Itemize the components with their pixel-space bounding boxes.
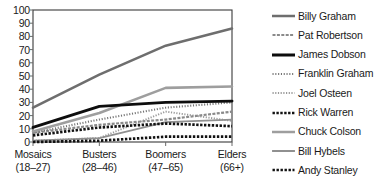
legend-line-swatch-icon [272, 165, 295, 175]
legend-label: Pat Robertson [298, 30, 363, 41]
legend-label: Billy Graham [298, 11, 356, 22]
x-axis-category-name: Busters [62, 148, 136, 161]
x-axis-tick-label: Elders(66+) [195, 148, 269, 174]
x-axis-category-name: Boomers [129, 148, 203, 161]
x-axis-tick-label: Busters(28–46) [62, 148, 136, 174]
x-axis-category-name: Mosaics [0, 148, 70, 161]
chart-legend: Billy GrahamPat RobertsonJames DobsonFra… [272, 4, 383, 183]
legend-line-swatch-icon [272, 69, 295, 79]
legend-item[interactable]: Franklin Graham [272, 67, 373, 81]
legend-item[interactable]: James Dobson [272, 48, 366, 62]
x-axis-category-range: (66+) [195, 161, 269, 174]
legend-label: James Dobson [298, 49, 366, 60]
legend-item[interactable]: Rick Warren [272, 106, 353, 120]
legend-label: Franklin Graham [298, 68, 373, 79]
x-axis-tick-label: Boomers(47–65) [129, 148, 203, 174]
legend-line-swatch-icon [272, 127, 295, 137]
x-axis-labels: Mosaics(18–27)Busters(28–46)Boomers(47–6… [33, 146, 265, 183]
legend-line-swatch-icon [272, 146, 295, 156]
legend-line-swatch-icon [272, 88, 295, 98]
legend-line-swatch-icon [272, 30, 295, 40]
legend-item[interactable]: Billy Graham [272, 9, 356, 23]
legend-item[interactable]: Pat Robertson [272, 28, 363, 42]
legend-label: Bill Hybels [298, 146, 345, 157]
line-chart: 1009080706050403020100 Mosaics(18–27)Bus… [0, 0, 383, 183]
legend-item[interactable]: Bill Hybels [272, 144, 345, 158]
legend-label: Chuck Colson [298, 126, 361, 137]
legend-label: Andy Stanley [298, 165, 357, 176]
legend-item[interactable]: Joel Osteen [272, 86, 352, 100]
x-axis-category-range: (28–46) [62, 161, 136, 174]
x-axis-tick-label: Mosaics(18–27) [0, 148, 70, 174]
legend-line-swatch-icon [272, 108, 295, 118]
legend-line-swatch-icon [272, 11, 295, 21]
legend-label: Rick Warren [298, 107, 353, 118]
x-axis-category-name: Elders [195, 148, 269, 161]
series-line [33, 28, 232, 107]
x-axis-category-range: (47–65) [129, 161, 203, 174]
series-lines [33, 28, 232, 142]
x-axis-category-range: (18–27) [0, 161, 70, 174]
legend-label: Joel Osteen [298, 88, 352, 99]
legend-item[interactable]: Chuck Colson [272, 125, 361, 139]
legend-item[interactable]: Andy Stanley [272, 163, 357, 177]
legend-line-swatch-icon [272, 50, 295, 60]
